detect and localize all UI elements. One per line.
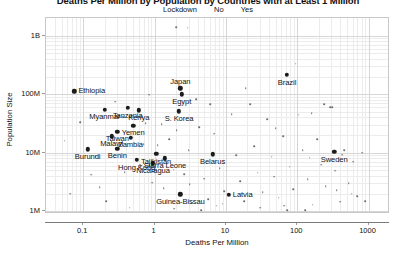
x-tick-label: 10 [221,226,229,235]
y-tick-mark [42,93,45,94]
y-tick-mark [42,152,45,153]
y-tick-label: 1M [30,206,40,215]
scatter-chart: Deaths Per Million by Population by Coun… [0,0,416,253]
x-axis-line [45,222,389,223]
x-tick-label: 1 [152,226,156,235]
y-tick-mark [42,35,45,36]
y-tick-label: 100M [21,89,40,98]
axis-layer: 0.111010010001B100M10M1M [0,0,416,253]
y-tick-mark [42,210,45,211]
y-axis-label: Population Size [5,75,14,165]
x-tick-label: 0.1 [77,226,87,235]
x-tick-label: 1000 [359,226,376,235]
y-tick-label: 10M [25,147,40,156]
x-tick-label: 100 [290,226,303,235]
y-tick-label: 1B [31,30,40,39]
x-axis-label: Deaths Per Million [45,238,389,247]
